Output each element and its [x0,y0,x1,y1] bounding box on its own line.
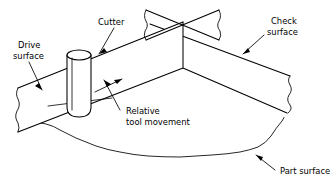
cutter-tool [67,50,91,117]
machining-surfaces-diagram: Cutter Drive surface Check surface Relat… [0,0,332,185]
label-relative-line1: Relative [126,106,160,116]
label-check-surface-line1: Check [271,16,297,26]
label-cutter: Cutter [98,17,125,27]
apex-torn-right [218,10,221,40]
diagram-canvas: Cutter Drive surface Check surface Relat… [0,0,332,185]
apex-torn-left [144,10,147,40]
label-drive-surface-line1: Drive [18,40,40,50]
label-part-surface: Part surface [280,166,330,176]
label-drive-surface-line2: surface [13,51,44,61]
label-relative-line2: tool movement [126,117,191,127]
cutter-top-ellipse [67,50,91,60]
label-check-surface-line2: surface [267,27,298,37]
